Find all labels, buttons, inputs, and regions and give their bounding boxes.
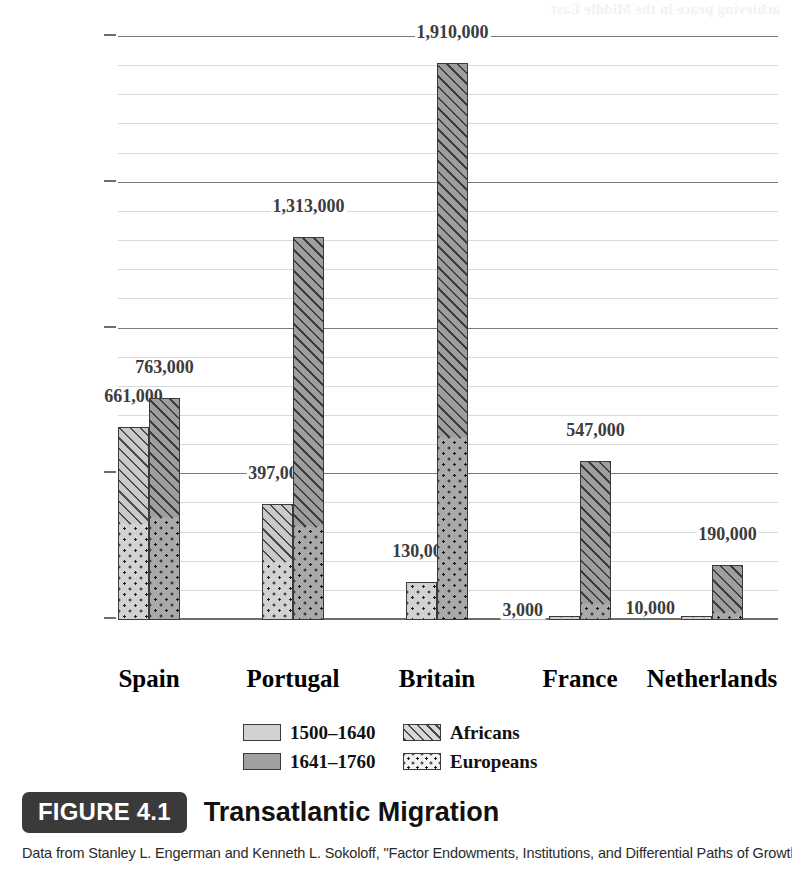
bar-segment-europeans — [550, 616, 579, 619]
value-label-netherlands_p2: 190,000 — [696, 525, 759, 544]
legend-item-europeans: Europeans — [403, 751, 573, 773]
x-axis-label-france: France — [543, 665, 618, 693]
bar-britain-period1[interactable] — [406, 582, 437, 620]
bar-spain-period2[interactable] — [149, 398, 180, 620]
bar-segment-europeans — [407, 582, 436, 619]
legend-swatch-period2 — [243, 753, 281, 770]
y-axis-tick-mark — [104, 180, 116, 182]
value-label-netherlands_p1: 10,000 — [624, 599, 678, 618]
figure-source-note: Data from Stanley L. Engerman and Kennet… — [22, 845, 782, 861]
bar-segment-europeans — [713, 612, 742, 619]
bar-segment-africans — [119, 428, 148, 524]
legend-swatch-africans — [403, 724, 441, 741]
y-axis-tick-mark — [104, 326, 116, 328]
x-axis-label-spain: Spain — [118, 665, 179, 693]
chart-legend: 1500–1640 Africans 1641–1760 Europeans — [243, 718, 573, 776]
bar-spain-period1[interactable] — [118, 427, 149, 620]
value-label-france_p1: 3,000 — [501, 601, 546, 620]
legend-label-period1: 1500–1640 — [290, 722, 376, 744]
chart-plot-area: 0500,0001,000,0001,500,0002,000,000Spain… — [118, 37, 778, 620]
x-axis-label-britain: Britain — [399, 665, 475, 693]
bar-segment-africans — [713, 566, 742, 614]
legend-label-africans: Africans — [450, 722, 520, 744]
bar-segment-europeans — [263, 561, 292, 619]
figure-transatlantic-migration: 0500,0001,000,0001,500,0002,000,000Spain… — [0, 0, 792, 873]
caption-heading-row: FIGURE 4.1 Transatlantic Migration — [22, 792, 782, 833]
bar-segment-africans — [438, 64, 467, 439]
bar-segment-africans — [150, 399, 179, 519]
bar-portugal-period2[interactable] — [293, 237, 324, 620]
value-label-spain_p2: 763,000 — [133, 358, 196, 377]
value-label-portugal_p2: 1,313,000 — [271, 197, 347, 216]
bar-france-period1[interactable] — [549, 616, 580, 620]
bar-portugal-period1[interactable] — [262, 504, 293, 620]
legend-item-period1: 1500–1640 — [243, 722, 403, 744]
y-axis-tick-mark — [104, 617, 116, 619]
legend-label-period2: 1641–1760 — [290, 751, 376, 773]
bar-segment-europeans — [150, 517, 179, 619]
legend-swatch-europeans — [403, 753, 441, 770]
legend-swatch-period1 — [243, 724, 281, 741]
y-axis-tick-mark — [104, 471, 116, 473]
legend-item-africans: Africans — [403, 722, 573, 744]
figure-caption: FIGURE 4.1 Transatlantic Migration Data … — [22, 792, 782, 861]
bar-france-period2[interactable] — [580, 461, 611, 620]
bar-segment-europeans — [581, 603, 610, 619]
figure-number-badge: FIGURE 4.1 — [22, 792, 187, 833]
y-axis-tick-mark — [104, 34, 116, 36]
bar-segment-europeans — [294, 526, 323, 619]
value-label-france_p2: 547,000 — [564, 421, 627, 440]
bar-netherlands-period1[interactable] — [681, 616, 712, 620]
bar-segment-africans — [581, 462, 610, 605]
bar-netherlands-period2[interactable] — [712, 565, 743, 620]
bar-segment-europeans — [682, 616, 711, 619]
bar-segment-europeans — [438, 437, 467, 619]
bar-segment-europeans — [119, 523, 148, 619]
bar-britain-period2[interactable] — [437, 63, 468, 620]
legend-item-period2: 1641–1760 — [243, 751, 403, 773]
figure-title: Transatlantic Migration — [204, 799, 500, 826]
bar-segment-africans — [294, 238, 323, 527]
x-axis-label-portugal: Portugal — [246, 665, 339, 693]
x-axis-label-netherlands: Netherlands — [647, 665, 778, 693]
value-label-britain_p2: 1,910,000 — [415, 23, 491, 42]
bar-segment-africans — [263, 505, 292, 562]
legend-label-europeans: Europeans — [450, 751, 537, 773]
